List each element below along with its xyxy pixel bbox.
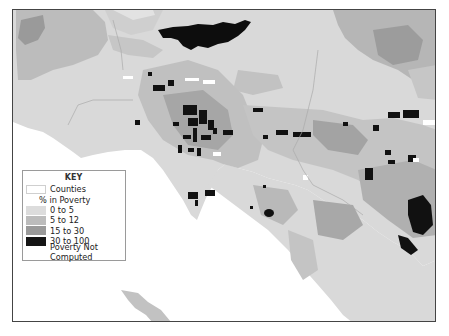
legend-label-not-computed: Poverty Not Computed (50, 242, 121, 262)
swatch-0-5 (26, 206, 46, 215)
swatch-5-12 (26, 216, 46, 225)
map-frame[interactable] (12, 9, 436, 322)
legend-label-15-30: 15 to 30 (50, 226, 84, 236)
legend-row-not-computed: Poverty Not Computed (26, 247, 121, 257)
map-legend: KEY Counties % in Poverty 0 to 5 5 to 12… (22, 170, 126, 261)
swatch-15-30 (26, 226, 46, 235)
legend-label-0-5: 0 to 5 (50, 205, 74, 215)
legend-row-0-5: 0 to 5 (26, 205, 121, 215)
catalina-island (121, 290, 171, 322)
tract-high-poverty-oc (264, 209, 274, 217)
legend-label-counties: Counties (50, 184, 86, 194)
legend-row-5-12: 5 to 12 (26, 215, 121, 225)
poverty-choropleth-map[interactable] (13, 10, 436, 322)
legend-label-5-12: 5 to 12 (50, 215, 79, 225)
legend-subheading: % in Poverty (26, 195, 121, 205)
counties-swatch (26, 185, 46, 194)
swatch-30-100 (26, 237, 46, 246)
legend-title: KEY (26, 173, 121, 183)
legend-row-15-30: 15 to 30 (26, 226, 121, 236)
legend-row-counties: Counties (26, 184, 121, 194)
